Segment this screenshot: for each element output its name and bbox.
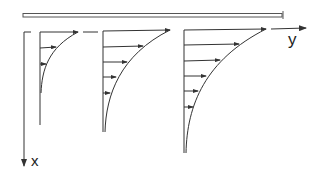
flat-plate: [23, 11, 283, 19]
velocity-profile-1: [40, 32, 78, 125]
x-axis-label: x: [31, 153, 39, 168]
velocity-profile-2: [103, 30, 170, 132]
diagram-canvas: [0, 0, 318, 173]
velocity-profile-3: [184, 29, 266, 153]
x-axis: [24, 32, 31, 166]
y-axis-label: y: [288, 31, 297, 48]
